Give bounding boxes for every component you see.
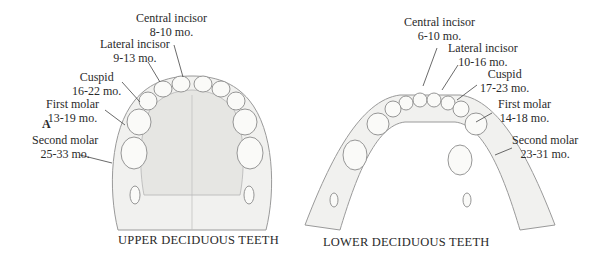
lower-caption: LOWER DECIDUOUS TEETH bbox=[323, 235, 489, 250]
lower-first-molar-label: First molar14-18 mo. bbox=[498, 97, 551, 125]
dental-arch-illustrations bbox=[0, 0, 594, 254]
lower-cuspid-label: Cuspid17-23 mo. bbox=[480, 67, 529, 95]
upper-arch-illustration bbox=[112, 76, 271, 230]
upper-first-molar-label: First molar13-19 mo. bbox=[46, 97, 99, 125]
upper-lateral-incisor-label: Lateral incisor9-13 mo. bbox=[100, 37, 170, 65]
lower-lateral-incisor-label: Lateral incisor10-16 mo. bbox=[448, 41, 518, 69]
upper-caption: UPPER DECIDUOUS TEETH bbox=[118, 233, 279, 248]
upper-cuspid-label: Cuspid16-22 mo. bbox=[72, 70, 121, 98]
lower-central-incisor-label: Central incisor6-10 mo. bbox=[404, 15, 475, 43]
upper-second-molar-label: Second molar25-33 mo. bbox=[32, 133, 98, 161]
lower-second-molar-label: Second molar23-31 mo. bbox=[512, 133, 578, 161]
upper-central-incisor-label: Central incisor8-10 mo. bbox=[136, 11, 207, 39]
